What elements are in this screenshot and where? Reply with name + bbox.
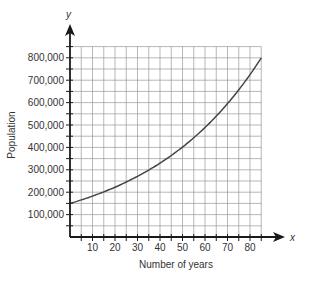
x-tick-label: 10 — [87, 242, 99, 253]
grid-lines — [70, 47, 261, 237]
y-tick-label: 300,000 — [28, 164, 65, 175]
y-tick-labels: 100,000200,000300,000400,000500,000600,0… — [28, 52, 65, 220]
population-chart: 1020304050607080 100,000200,000300,00040… — [0, 0, 310, 285]
y-tick-label: 600,000 — [28, 97, 65, 108]
axes — [65, 24, 285, 242]
y-tick-label: 200,000 — [28, 187, 65, 198]
y-tick-label: 500,000 — [28, 120, 65, 131]
y-tick-label: 800,000 — [28, 52, 65, 63]
x-tick-label: 60 — [199, 242, 211, 253]
y-tick-label: 100,000 — [28, 209, 65, 220]
x-axis-letter: x — [289, 232, 296, 243]
y-tick-label: 700,000 — [28, 75, 65, 86]
y-axis-letter: y — [65, 9, 72, 20]
axis-ticks — [66, 47, 261, 241]
x-tick-labels: 1020304050607080 — [87, 242, 256, 253]
x-tick-label: 30 — [132, 242, 144, 253]
y-axis-title: Population — [6, 111, 17, 158]
x-tick-label: 70 — [222, 242, 234, 253]
x-tick-label: 40 — [154, 242, 166, 253]
x-tick-label: 50 — [177, 242, 189, 253]
population-curve — [70, 58, 261, 204]
x-tick-label: 80 — [244, 242, 256, 253]
x-tick-label: 20 — [109, 242, 121, 253]
y-tick-label: 400,000 — [28, 142, 65, 153]
x-axis-title: Number of years — [139, 259, 213, 270]
